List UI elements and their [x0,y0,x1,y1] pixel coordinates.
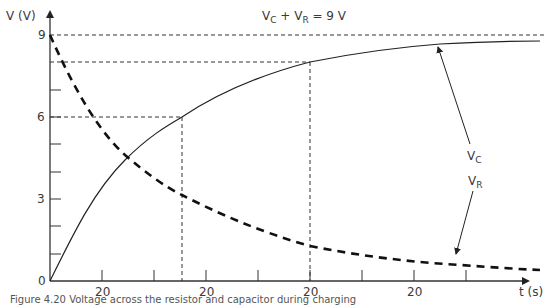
x-ticks [102,270,466,281]
origin-label: 0 [38,274,46,288]
y-axis-label: V (V) [6,9,36,23]
x-tick-label-7: 20 [407,285,422,299]
vc-annotation-arrow [438,47,470,144]
rc-charging-chart: V (V) 9 6 3 0 20 20 20 20 t (s) VC + VR … [0,0,552,308]
y-tick-label-3: 3 [37,192,45,206]
vr-annotation-arrow [456,191,473,254]
y-tick-label-6: 6 [37,110,45,124]
chart-title: VC + VR = 9 V [262,9,347,25]
y-tick-label-9: 9 [38,28,46,42]
vr-annotation-label: VR [468,174,482,190]
x-axis-label: t (s) [519,285,543,299]
vc-annotation-label: VC [467,149,482,165]
figure-caption: Figure 4.20 Voltage across the resistor … [10,294,356,305]
y-ticks [50,90,61,254]
